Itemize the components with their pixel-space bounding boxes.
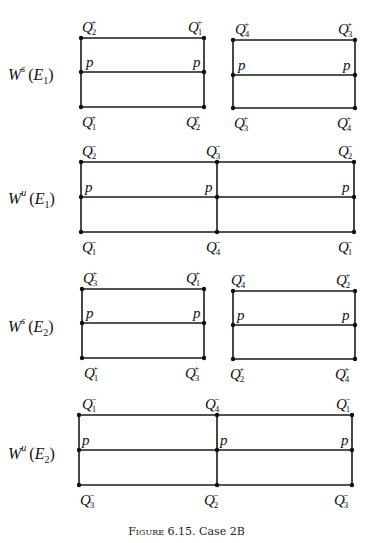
case-2b-diagram: Ws(E1)Q2+Q1+Q1+Q2+ppQ4+Q3+Q3+Q4+ppWu(E1)… [0,0,373,543]
vertex-dot [353,73,357,77]
q-point-label: Q1− [82,394,96,414]
figure-number: 6.15. [168,525,196,538]
neighborhood-box: Q4+Q3+Q3+Q4+pp [231,19,357,133]
q-point-label: Q1− [82,237,96,257]
p-point-label: p [85,54,94,70]
q-point-label: Q1+ [188,17,202,37]
vertex-dot [79,36,83,40]
p-point-label: p [192,54,201,70]
vertex-dot [79,70,83,74]
p-point-label: p [84,179,93,195]
q-point-label: Q2+ [230,364,244,384]
vertex-dot [79,105,83,109]
vertex-dot [353,357,357,361]
p-point-label: p [341,179,350,195]
q-point-label: Q2− [204,490,218,510]
vertex-dot [202,321,206,325]
p-point-label: p [204,179,213,195]
q-point-label: Q3+ [338,19,353,39]
figure-title: Case 2B [199,525,245,538]
neighborhood-box: Q1−Q4−Q1−Q3−Q2−Q3−ppp [77,394,354,510]
vertex-dot [353,289,357,293]
q-point-label: Q3− [334,490,349,510]
q-point-label: Q1+ [186,268,200,288]
vertex-dot [215,483,219,487]
vertex-dot [215,230,219,234]
manifold-label: Wu(E2) [8,442,55,465]
vertex-dot [80,321,84,325]
vertex-dot [215,448,219,452]
vertex-dot [231,73,235,77]
vertex-dot [202,287,206,291]
vertex-dot [353,323,357,327]
q-point-label: Q3+ [83,268,98,288]
q-point-label: Q2+ [336,270,350,290]
manifold-label: Ws(E1) [8,63,54,86]
q-point-label: Q1+ [82,112,96,132]
figure-caption: Figure 6.15. Case 2B [0,525,373,538]
q-point-label: Q3+ [234,113,249,133]
vertex-dot [77,483,81,487]
p-point-label: p [81,432,90,448]
vertex-dot [231,38,235,42]
vertex-dot [79,160,83,164]
vertex-dot [353,106,357,110]
q-point-label: Q4+ [337,113,352,133]
p-point-label: p [342,57,351,73]
q-point-label: Q3− [80,490,95,510]
vertex-dot [80,287,84,291]
figure-prefix: Figure [128,525,164,538]
vertex-dot [231,357,235,361]
vertex-dot [79,195,83,199]
vertex-dot [77,413,81,417]
q-point-label: Q2− [82,141,96,161]
vertex-dot [77,448,81,452]
q-point-label: Q3− [206,141,221,161]
vertex-dot [202,36,206,40]
q-point-label: Q4+ [231,270,246,290]
q-point-label: Q4+ [235,19,250,39]
p-point-label: p [219,432,228,448]
q-point-label: Q4− [206,237,221,257]
vertex-dot [231,289,235,293]
manifold-row-4: Wu(E2)Q1−Q4−Q1−Q3−Q2−Q3−ppp [8,394,354,510]
vertex-dot [350,448,354,452]
p-point-label: p [340,432,349,448]
p-point-label: p [237,57,246,73]
q-point-label: Q2+ [186,112,200,132]
q-point-label: Q2− [338,141,352,161]
manifold-row-2: Wu(E1)Q2−Q3−Q2−Q1−Q4−Q1−ppp [8,141,356,257]
vertex-dot [202,356,206,360]
vertex-dot [353,38,357,42]
vertex-dot [352,195,356,199]
manifold-row-1: Ws(E1)Q2+Q1+Q1+Q2+ppQ4+Q3+Q3+Q4+pp [8,17,357,133]
p-point-label: p [85,305,94,321]
q-point-label: Q1+ [84,363,98,383]
vertex-dot [80,356,84,360]
neighborhood-box: Q2−Q3−Q2−Q1−Q4−Q1−ppp [79,141,356,257]
q-point-label: Q2+ [82,17,96,37]
vertex-dot [350,413,354,417]
vertex-dot [231,106,235,110]
vertex-dot [350,483,354,487]
neighborhood-box: Q2+Q1+Q1+Q2+pp [79,17,206,132]
q-point-label: Q1− [338,237,352,257]
q-point-label: Q4− [205,394,220,414]
vertex-dot [202,105,206,109]
neighborhood-box: Q4+Q2+Q2+Q4+pp [230,270,357,384]
manifold-label: Wu(E1) [8,187,55,210]
p-point-label: p [192,305,201,321]
p-point-label: p [236,307,245,323]
neighborhood-box: Q3+Q1+Q1+Q3+pp [80,268,206,383]
q-point-label: Q4+ [335,364,350,384]
q-point-label: Q3+ [185,363,200,383]
vertex-dot [79,230,83,234]
vertex-dot [352,160,356,164]
p-point-label: p [341,307,350,323]
vertex-dot [352,230,356,234]
vertex-dot [215,195,219,199]
vertex-dot [231,323,235,327]
q-point-label: Q1− [336,394,350,414]
manifold-row-3: Ws(E2)Q3+Q1+Q1+Q3+ppQ4+Q2+Q2+Q4+pp [8,268,357,384]
vertex-dot [202,70,206,74]
